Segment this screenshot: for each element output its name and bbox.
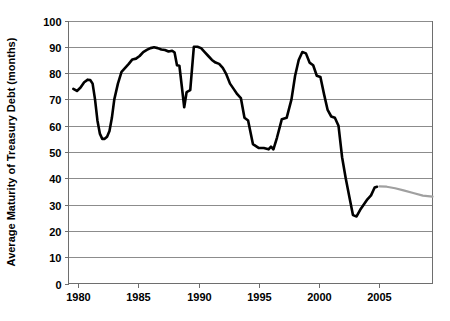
x-tick-label-2005: 2005 [367, 291, 391, 303]
y-axis-title: Average Maturity of Treasury Debt (month… [5, 37, 17, 266]
y-tick-label-10: 10 [49, 252, 61, 264]
x-tick-label-1980: 1980 [66, 291, 90, 303]
y-tick-label-60: 60 [49, 121, 61, 133]
y-tick-label-50: 50 [49, 147, 61, 159]
chart-container: 1009080706050403020100 19801985199019952… [0, 0, 450, 321]
y-tick-label-40: 40 [49, 173, 61, 185]
treasury-debt-maturity-line-chart: 1009080706050403020100 19801985199019952… [0, 0, 450, 321]
y-tick-label-70: 70 [49, 94, 61, 106]
x-tick-label-1995: 1995 [247, 291, 271, 303]
y-tick-label-80: 80 [49, 68, 61, 80]
y-tick-label-30: 30 [49, 200, 61, 212]
y-tick-label-0: 0 [55, 279, 61, 291]
y-tick-label-100: 100 [43, 16, 61, 28]
x-tick-label-1990: 1990 [187, 291, 211, 303]
x-tick-label-2000: 2000 [307, 291, 331, 303]
chart-background [0, 0, 450, 321]
x-tick-label-1985: 1985 [126, 291, 150, 303]
y-tick-label-20: 20 [49, 226, 61, 238]
y-tick-label-90: 90 [49, 42, 61, 54]
